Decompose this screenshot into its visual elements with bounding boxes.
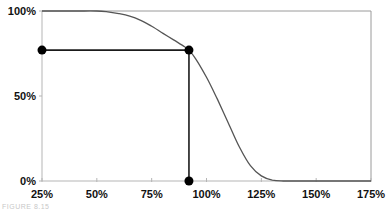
y-axis: 0%50%100% [8, 5, 42, 187]
marker-point [38, 46, 47, 55]
x-tick-label: 150% [302, 188, 330, 200]
x-tick-label: 75% [141, 188, 163, 200]
plot-frame [42, 11, 371, 181]
data-curve [42, 11, 371, 181]
guide-lines [42, 50, 189, 181]
x-tick-label: 125% [247, 188, 275, 200]
chart: 25%50%75%100%125%150%175% 0%50%100% [0, 0, 390, 213]
y-tick-label: 100% [8, 5, 36, 17]
x-tick-label: 50% [86, 188, 108, 200]
y-tick-label: 50% [14, 90, 36, 102]
x-tick-label: 25% [31, 188, 53, 200]
x-tick-label: 175% [357, 188, 385, 200]
y-tick-label: 0% [20, 175, 36, 187]
marker-point [184, 177, 193, 186]
figure-caption: FIGURE 8.15 [2, 203, 50, 210]
x-tick-label: 100% [192, 188, 220, 200]
data-markers [38, 46, 194, 186]
marker-point [184, 46, 193, 55]
